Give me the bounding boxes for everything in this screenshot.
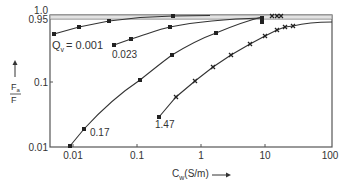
x-tick-001: 0.01: [63, 150, 83, 161]
svg-text:Cw(S/m): Cw(S/m): [172, 168, 209, 181]
label-q0023: 0.023: [112, 49, 137, 60]
arrow-up-icon: [13, 60, 18, 65]
label-q0001: Qv= 0.001: [52, 39, 103, 53]
x-tick-1: 1: [198, 150, 204, 161]
svg-text:Fa: Fa: [11, 82, 21, 93]
label-q147: 1.47: [155, 119, 175, 130]
curve-q0023: [114, 18, 262, 45]
x-axis-label: Cw(S/m): [172, 168, 231, 181]
curve-q147: [159, 22, 332, 117]
y-tick-01: 0.1: [34, 77, 48, 88]
x-tick-01: 0.1: [130, 150, 144, 161]
x-tick-100: 100: [322, 150, 339, 161]
svg-text:F: F: [11, 95, 17, 105]
chart: 1.0 0.95 0.1 0.01 0.01 0.1 1 10 100 Cw(S…: [0, 0, 350, 196]
label-q017: 0.17: [90, 127, 110, 138]
arrow-right-icon: [226, 173, 231, 178]
x-tick-10: 10: [259, 150, 271, 161]
y-axis-label: Fa F: [10, 60, 21, 105]
y-tick-095: 0.95: [29, 14, 49, 25]
y-tick-001: 0.01: [29, 142, 49, 153]
markers-q147: [157, 24, 295, 119]
markers-q0023: [112, 16, 264, 47]
